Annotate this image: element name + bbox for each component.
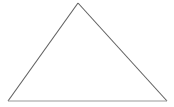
triangle-figure [0, 0, 174, 107]
drawing-canvas [0, 0, 174, 107]
canvas-background [0, 0, 174, 107]
